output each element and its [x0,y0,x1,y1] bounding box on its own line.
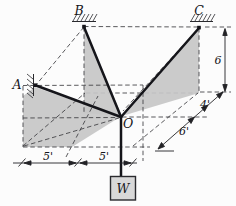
shaded-planes [23,27,199,147]
point-label-a: A [11,77,21,92]
diagonal-b-to-a [36,27,84,85]
dimension-bottom [13,159,137,167]
dimension-label-bottom-left: 5' [43,150,53,163]
dimension-label-depth-front: 6' [179,125,189,138]
dimension-label-height: 6 [215,54,222,67]
front-top-edge [23,85,143,86]
anchor-dot-a [34,83,38,87]
diagram-canvas: A B C O W 6 4' 6' 5' 5' [0,0,236,206]
point-label-c: C [194,3,204,18]
dimension-height [223,29,227,92]
anchor-dot-c [197,26,201,30]
dimension-label-bottom-right: 5' [99,150,109,163]
point-label-o: O [123,116,133,131]
weight-label: W [117,181,131,196]
dimension-label-depth-back: 4' [199,98,210,111]
point-label-b: B [73,3,83,18]
ceiling-back-edge [84,27,199,28]
anchor-dot-b [82,25,86,29]
statics-figure: A B C O W 6 4' 6' 5' 5' [0,0,236,206]
